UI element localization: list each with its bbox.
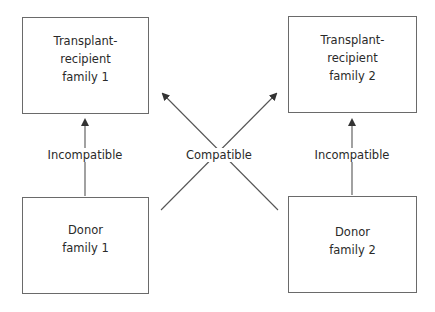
donor-family-2-box: Donor family 2 xyxy=(288,196,417,293)
compatible-label: Compatible xyxy=(184,148,254,162)
incompatible-label-left: Incompatible xyxy=(46,148,125,162)
donor-family-2-label: Donor family 2 xyxy=(329,223,375,259)
recipient-family-1-label: Transplant- recipient family 1 xyxy=(54,32,118,86)
recipient-family-2-box: Transplant- recipient family 2 xyxy=(288,16,417,113)
donor-family-1-box: Donor family 1 xyxy=(22,197,149,294)
donor-family-1-label: Donor family 1 xyxy=(62,221,108,257)
recipient-family-1-box: Transplant- recipient family 1 xyxy=(22,17,149,114)
incompatible-label-right: Incompatible xyxy=(313,148,392,162)
recipient-family-2-label: Transplant- recipient family 2 xyxy=(321,31,385,85)
